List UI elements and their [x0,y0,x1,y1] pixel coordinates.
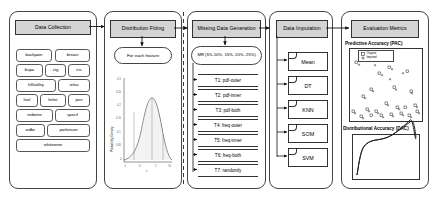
density-plot-ylabel: Probability Density [110,126,114,152]
dataset-chip[interactable]: whitewine [16,139,90,152]
dataset-chip[interactable]: specif [55,109,90,122]
density-plot [121,75,172,164]
dataset-chip[interactable]: wdbc [16,124,45,137]
technique-row[interactable]: T4: freq-outer [198,119,258,132]
page-fold-icon [289,53,297,59]
page-fold-icon [289,125,297,131]
header-data-imputation[interactable]: Data Imputation [276,20,328,38]
node-missing-rate[interactable]: MR (5%,10%, 15%, 20%, 25%) [191,46,262,65]
dataset-chip[interactable]: redwine [16,109,53,122]
technique-row[interactable]: T7: randomly [198,164,258,177]
dataset-chip[interactable]: parkinson [47,124,90,137]
imputation-method[interactable]: Mean [288,52,328,71]
dataset-chip[interactable]: breast [55,49,90,62]
imputation-method[interactable]: DT [288,76,328,95]
imputation-method-label: SOM [302,131,314,137]
header-data-collection[interactable]: Data Collection [15,20,91,35]
legend-plus-icon [361,56,365,60]
page-fold-icon [289,77,297,83]
dataset-chip[interactable]: iris [68,64,90,77]
legend-label-imputed: Imputed [367,56,377,59]
imputation-method-label: SVM [302,155,314,161]
dac-caption: Distributional Accuracy (DAC) [343,126,409,131]
dataset-chip[interactable]: leaf [16,94,38,107]
technique-row[interactable]: T5: freq-inner [198,134,258,147]
dataset-chip[interactable]: pen [68,94,90,107]
dac-line-plot [352,134,420,180]
technique-row[interactable]: T2: pdf-inner [198,89,258,102]
technique-row[interactable]: T3: pdf-both [198,104,258,117]
node-for-each-feature[interactable]: For each feature [114,47,172,64]
header-distribution-fitting[interactable]: Distribution Fitting [110,20,176,38]
imputation-method-label: DT [304,83,311,89]
dataset-chip[interactable]: ctg [45,64,66,77]
header-missing-data-generation[interactable]: Missing Data Generation [192,20,261,38]
pac-caption: Predictive Accuracy (PAC) [345,41,402,46]
technique-row[interactable]: T6: freq-both [198,149,258,162]
imputation-method-label: KNN [302,107,313,113]
dataset-chip[interactable]: relax [58,79,90,92]
page-fold-icon [289,149,297,155]
dataset-chip[interactable]: hillvalley [16,79,56,92]
dataset-chip[interactable]: bupa [16,64,43,77]
imputation-method-label: Mean [301,59,315,65]
pipeline-diagram: Data Collection backpain breast bupa ctg… [0,0,435,197]
imputation-method[interactable]: SVM [288,148,328,167]
dataset-chip[interactable]: backpain [16,49,52,62]
technique-row[interactable]: T1: pdf-outer [198,74,258,87]
pac-legend: Original Imputed [358,50,394,62]
page-fold-icon [289,101,297,107]
header-evaluation-metrics[interactable]: Evaluation Metrics [351,20,419,38]
imputation-method[interactable]: SOM [288,124,328,143]
imputation-method[interactable]: KNN [288,100,328,119]
dataset-chip[interactable]: letter [40,94,66,107]
